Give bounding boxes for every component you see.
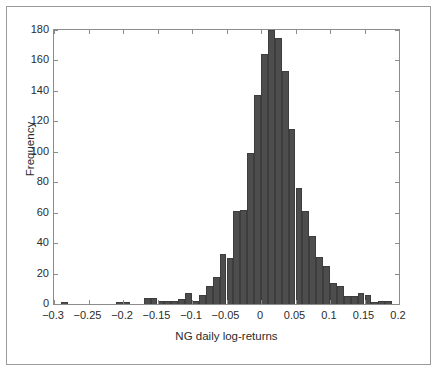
plot-area [53, 29, 400, 305]
histogram-bar [61, 302, 68, 304]
x-axis-tick-label: 0.2 [390, 310, 405, 321]
x-axis-tick-label: −0.15 [143, 310, 171, 321]
x-axis-tick [399, 300, 400, 305]
histogram-bar [158, 301, 165, 304]
y-axis-tick [53, 213, 58, 214]
x-axis-tick-label: 0.05 [284, 310, 305, 321]
histogram-bar [192, 301, 199, 304]
y-axis-tick-right [395, 274, 400, 275]
histogram-bar [302, 211, 309, 304]
y-axis-title: Frequency [24, 94, 36, 204]
histogram-bar [289, 129, 296, 304]
y-axis-tick [53, 243, 58, 244]
histogram-bar [199, 295, 206, 304]
y-axis-tick-right [395, 91, 400, 92]
y-axis-tick-right [395, 213, 400, 214]
x-axis-tick [296, 300, 297, 305]
x-axis-tick-top [54, 29, 55, 34]
histogram-bar [296, 188, 303, 304]
y-axis-tick [53, 91, 58, 92]
x-axis-tick-top [330, 29, 331, 34]
histogram-bar [116, 302, 123, 304]
y-axis-tick [53, 60, 58, 61]
histogram-bar [227, 258, 234, 304]
x-axis-tick-label: −0.3 [42, 310, 64, 321]
x-axis-tick-top [89, 29, 90, 34]
histogram-bar [178, 299, 185, 304]
histogram-figure: 020406080100120140160180 −0.3−0.25−0.2−0… [0, 0, 438, 372]
x-axis-tick-top [227, 29, 228, 34]
y-axis-tick-label: 160 [31, 54, 49, 65]
x-axis-tick-top [192, 29, 193, 34]
y-axis-tick [53, 121, 58, 122]
histogram-bar [123, 302, 130, 304]
histogram-bar [144, 298, 151, 304]
histogram-bar [358, 293, 365, 304]
x-axis-tick-label: 0.1 [321, 310, 336, 321]
histogram-bar [282, 71, 289, 304]
histogram-bar [385, 301, 392, 304]
histogram-bar [171, 301, 178, 304]
x-axis-tick [158, 300, 159, 305]
histogram-bar [365, 295, 372, 304]
histogram-bar [254, 95, 261, 304]
histogram-bar [247, 153, 254, 304]
histogram-bar [275, 38, 282, 304]
x-axis-tick-top [365, 29, 366, 34]
x-axis-tick [330, 300, 331, 305]
y-axis-tick-label: 60 [37, 207, 49, 218]
histogram-bar [378, 301, 385, 304]
y-axis-tick [53, 152, 58, 153]
x-axis-tick [261, 300, 262, 305]
y-axis-tick-label: 20 [37, 268, 49, 279]
x-axis-tick-top [158, 29, 159, 34]
y-axis-tick [53, 182, 58, 183]
y-axis-tick-right [395, 182, 400, 183]
y-axis-tick-label: 0 [43, 298, 49, 309]
y-axis-tick-right [395, 243, 400, 244]
x-axis-tick-label: 0 [257, 310, 263, 321]
y-axis-tick-right [395, 30, 400, 31]
x-axis-tick-label: 0.15 [353, 310, 374, 321]
x-axis-tick-top [261, 29, 262, 34]
y-axis-tick-label: 80 [37, 176, 49, 187]
y-axis-tick-right [395, 304, 400, 305]
x-axis-tick-top [399, 29, 400, 34]
histogram-bar [164, 301, 171, 304]
histogram-bar [240, 210, 247, 304]
x-axis-title: NG daily log-returns [53, 330, 400, 342]
histogram-bar [261, 54, 268, 304]
y-axis-tick-right [395, 121, 400, 122]
histogram-bar [268, 30, 275, 304]
y-axis-tick-label: 180 [31, 24, 49, 35]
histogram-bar [213, 277, 220, 304]
x-axis-tick-label: −0.25 [74, 310, 102, 321]
y-axis-tick-label: 40 [37, 237, 49, 248]
histogram-bar [185, 293, 192, 304]
y-axis-tick [53, 304, 58, 305]
histogram-bar [337, 286, 344, 304]
x-axis-tick-labels: −0.3−0.25−0.2−0.15−0.1−0.0500.050.10.150… [53, 310, 400, 324]
histogram-bar [316, 257, 323, 304]
histogram-bar [351, 296, 358, 304]
x-axis-tick-top [123, 29, 124, 34]
x-axis-tick-label: −0.2 [111, 310, 133, 321]
x-axis-tick-label: −0.1 [180, 310, 202, 321]
histogram-bar [220, 254, 227, 304]
x-axis-tick [365, 300, 366, 305]
y-axis-tick-right [395, 60, 400, 61]
histogram-bar [371, 302, 378, 304]
y-axis-tick-right [395, 152, 400, 153]
x-axis-tick-label: −0.05 [212, 310, 240, 321]
x-axis-tick [227, 300, 228, 305]
x-axis-tick [89, 300, 90, 305]
x-axis-tick-top [296, 29, 297, 34]
histogram-bar [233, 211, 240, 304]
histogram-bar [323, 266, 330, 304]
histogram-bar [344, 296, 351, 304]
histogram-bar [151, 298, 158, 304]
x-axis-tick [123, 300, 124, 305]
histogram-bar [206, 286, 213, 304]
histogram-bar [330, 283, 337, 304]
x-axis-tick [192, 300, 193, 305]
